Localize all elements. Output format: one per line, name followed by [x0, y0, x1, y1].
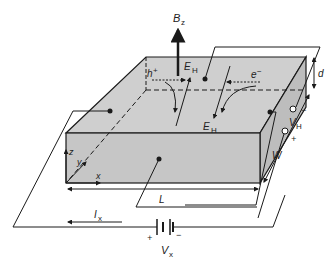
- svg-text:x: x: [169, 250, 173, 259]
- length-dimension: L: [68, 189, 258, 205]
- vh-minus-terminal: [290, 106, 296, 112]
- svg-text:z: z: [181, 18, 185, 27]
- thickness-dimension: d: [314, 58, 324, 88]
- svg-text:x: x: [98, 214, 102, 223]
- svg-text:L: L: [159, 194, 165, 205]
- svg-text:E: E: [184, 61, 191, 72]
- svg-text:z: z: [68, 147, 74, 157]
- svg-text:H: H: [211, 126, 217, 135]
- svg-text:d: d: [318, 68, 324, 79]
- svg-text:+: +: [153, 66, 158, 75]
- svg-text:x: x: [95, 171, 101, 181]
- svg-text:H: H: [296, 122, 302, 131]
- svg-text:+: +: [147, 233, 152, 243]
- bfield-label: B: [173, 12, 180, 24]
- svg-text:H: H: [192, 66, 198, 75]
- svg-text:−: −: [176, 230, 181, 240]
- svg-text:y: y: [76, 157, 82, 167]
- svg-text:I: I: [94, 209, 97, 220]
- svg-text:−: −: [257, 67, 262, 76]
- hall-effect-diagram: B z h + E H e − E H − V H +: [0, 0, 332, 264]
- svg-text:E: E: [203, 121, 210, 132]
- svg-text:+: +: [291, 134, 296, 144]
- svg-text:W: W: [272, 150, 283, 161]
- vh-plus-terminal: [282, 128, 288, 134]
- semiconductor-slab: [66, 57, 306, 183]
